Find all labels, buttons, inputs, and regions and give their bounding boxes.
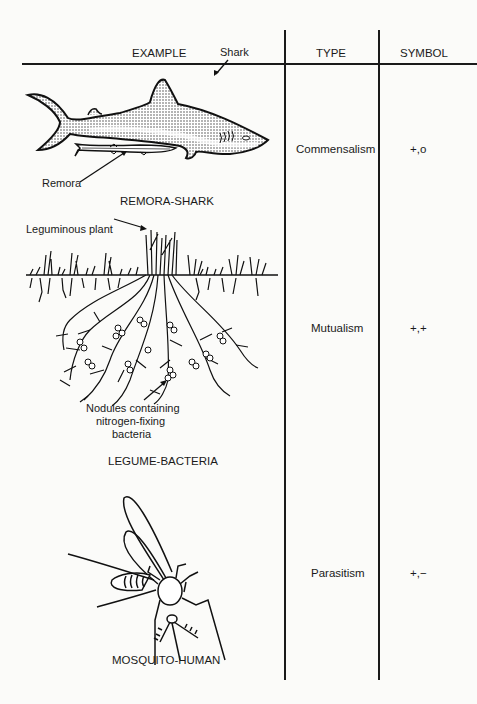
label-remora: Remora: [42, 177, 81, 189]
symbol-commensalism: +,o: [410, 143, 426, 155]
label-leguminous-plant: Leguminous plant: [26, 223, 113, 235]
caption-legume-bacteria: LEGUME-BACTERIA: [108, 455, 218, 467]
type-parasitism: Parasitism: [311, 567, 365, 579]
symbol-mutualism: +,+: [410, 322, 427, 334]
caption-mosquito-human: MOSQUITO-HUMAN: [112, 654, 220, 666]
type-commensalism: Commensalism: [296, 143, 375, 155]
column-divider-symbol: [378, 30, 380, 680]
symbol-parasitism: +,−: [410, 567, 427, 579]
label-nodules-3: bacteria: [112, 428, 151, 440]
header-type: TYPE: [316, 47, 346, 59]
type-mutualism: Mutualism: [311, 322, 363, 334]
shark-illustration: [0, 0, 300, 200]
caption-remora-shark: REMORA-SHARK: [120, 195, 214, 207]
label-nodules-2: nitrogen-fixing: [96, 415, 165, 427]
label-shark: Shark: [220, 46, 249, 58]
label-nodules-1: Nodules containing: [86, 402, 180, 414]
header-symbol: SYMBOL: [400, 47, 448, 59]
mosquito-illustration: [0, 480, 300, 660]
